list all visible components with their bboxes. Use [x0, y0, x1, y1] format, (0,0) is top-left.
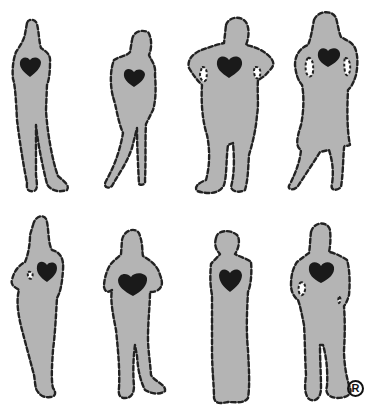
silhouette-4 [289, 12, 358, 190]
silhouette-1 [13, 20, 68, 191]
silhouette-5 [12, 216, 64, 397]
silhouette-2 [105, 31, 156, 188]
silhouette-3 [189, 18, 274, 193]
silhouette-8 [291, 223, 351, 400]
silhouette-7 [210, 231, 251, 403]
silhouette-6 [104, 230, 165, 398]
silhouettes-illustration [0, 0, 368, 409]
registered-trademark-icon: R [347, 380, 364, 397]
